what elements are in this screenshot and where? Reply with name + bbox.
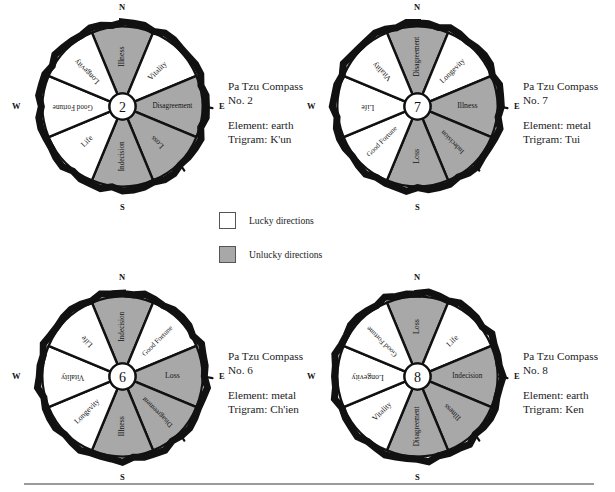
compass-spoke-overshoot (204, 377, 213, 379)
compass-segment-label: Illness (117, 46, 126, 66)
cardinal-label-n: N (414, 2, 420, 12)
compass-spoke-overshoot (499, 107, 508, 109)
caption-number: No. 7 (523, 94, 598, 108)
caption-compass-2: Pa Tzu Compass No. 2 Element: earth Trig… (228, 80, 303, 146)
caption-compass-8: Pa Tzu Compass No. 8 Element: earth Trig… (523, 350, 598, 416)
caption-spacer (228, 107, 303, 119)
compass-segment-label: Loss (412, 149, 421, 164)
cardinal-label-w: W (307, 101, 316, 111)
cardinal-label-n: N (119, 272, 125, 282)
caption-spacer (523, 107, 598, 119)
cardinal-label-s: S (415, 202, 420, 212)
compass-segment-label: Life (361, 103, 375, 112)
cardinal-label-w: W (307, 371, 316, 381)
caption-spacer (228, 377, 303, 389)
compass-center-number: 6 (119, 370, 126, 385)
cardinal-label-s: S (120, 472, 125, 482)
legend-item-unlucky: Unlucky directions (219, 241, 322, 267)
cardinal-label-s: S (415, 472, 420, 482)
compass-segment-label: Disagreement (152, 102, 192, 110)
caption-number: No. 8 (523, 364, 598, 378)
compass-segment-label: Indecision (452, 372, 482, 380)
compass-segment-label: Illness (117, 416, 126, 436)
caption-title: Pa Tzu Compass (228, 80, 303, 94)
caption-element: Element: earth (523, 389, 598, 403)
compass-2-diagram: 2IllnessVitalityDisagreementLossIndecisi… (30, 14, 215, 199)
caption-number: No. 6 (228, 364, 303, 378)
cardinal-label-e: E (219, 101, 225, 111)
caption-trigram: Trigram: Tui (523, 133, 598, 147)
cardinal-label-s: S (120, 202, 125, 212)
bottom-divider (24, 483, 594, 485)
caption-element: Element: earth (228, 119, 303, 133)
compass-figure-page: 2IllnessVitalityDisagreementLossIndecisi… (0, 0, 615, 492)
compass-segment-label: Good Fortune (53, 103, 93, 111)
compass-block-1: 7DisagreementLongevityIllnessIndecisionL… (305, 2, 530, 217)
legend-swatch-lucky-icon (219, 212, 236, 229)
cardinal-label-n: N (119, 2, 125, 12)
legend-swatch-unlucky-icon (219, 246, 236, 263)
caption-trigram: Trigram: Ch'ien (228, 403, 303, 417)
caption-compass-6: Pa Tzu Compass No. 6 Element: metal Trig… (228, 350, 303, 416)
caption-number: No. 2 (228, 94, 303, 108)
caption-title: Pa Tzu Compass (523, 80, 598, 94)
cardinal-label-e: E (219, 371, 225, 381)
compass-segment-label: Vitality (61, 373, 84, 382)
legend-label-lucky: Lucky directions (249, 215, 314, 226)
caption-trigram: Trigram: Ken (523, 403, 598, 417)
compass-center-number: 2 (119, 100, 126, 115)
compass-6-diagram: 6IndecisionGood FortuneLossDisagreementI… (30, 284, 215, 469)
compass-segment-label: Loss (165, 371, 180, 380)
legend: Lucky directions Unlucky directions (219, 207, 322, 275)
compass-segment-label: Illness (457, 101, 477, 110)
caption-spacer (523, 377, 598, 389)
cardinal-label-w: W (12, 101, 21, 111)
cardinal-label-n: N (414, 272, 420, 282)
caption-trigram: Trigram: K'un (228, 133, 303, 147)
compass-segment-label: Loss (412, 319, 421, 334)
compass-center-number: 7 (414, 100, 421, 115)
legend-label-unlucky: Unlucky directions (249, 249, 322, 260)
cardinal-label-w: W (12, 371, 21, 381)
compass-segment-label: Disagreement (413, 37, 421, 77)
compass-8-diagram: 8LossLifeIndecisionIllnessDisagreementVi… (325, 284, 510, 469)
compass-7-diagram: 7DisagreementLongevityIllnessIndecisionL… (325, 14, 510, 199)
caption-title: Pa Tzu Compass (523, 350, 598, 364)
compass-segment-label: Indecision (118, 311, 126, 341)
compass-segment-label: Longevity (352, 373, 384, 382)
compass-block-0: 2IllnessVitalityDisagreementLossIndecisi… (10, 2, 235, 217)
compass-spoke-overshoot (204, 107, 213, 109)
caption-element: Element: metal (523, 119, 598, 133)
compass-segment-label: Disagreement (413, 406, 421, 446)
compass-block-2: 6IndecisionGood FortuneLossDisagreementI… (10, 272, 235, 487)
compass-segment-label: Indecision (118, 141, 126, 171)
cardinal-label-e: E (514, 371, 520, 381)
cardinal-label-e: E (514, 101, 520, 111)
caption-compass-7: Pa Tzu Compass No. 7 Element: metal Trig… (523, 80, 598, 146)
compass-spoke-overshoot (499, 377, 508, 379)
caption-title: Pa Tzu Compass (228, 350, 303, 364)
legend-item-lucky: Lucky directions (219, 207, 322, 233)
compass-center-number: 8 (414, 370, 421, 385)
compass-block-3: 8LossLifeIndecisionIllnessDisagreementVi… (305, 272, 530, 487)
caption-element: Element: metal (228, 389, 303, 403)
